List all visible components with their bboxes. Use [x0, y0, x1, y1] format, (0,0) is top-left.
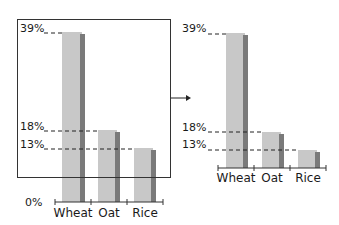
right-category-wheat: Wheat: [217, 171, 256, 185]
left-bar-oat: [98, 130, 120, 202]
left-label-39: 39%: [20, 22, 44, 35]
right-bar-rice: [298, 150, 320, 168]
right-category-rice: Rice: [295, 171, 321, 185]
left-category-oat: Oat: [98, 206, 120, 220]
right-bar-wheat: [226, 33, 248, 168]
left-label-0: 0%: [25, 196, 42, 209]
left-bar-wheat: [62, 32, 85, 202]
left-chart: 39% 18% 13% 0% Wheat Oat Rice: [18, 20, 171, 221]
right-label-13: 13%: [182, 138, 206, 151]
left-label-13: 13%: [20, 138, 44, 151]
left-category-rice: Rice: [132, 206, 158, 220]
right-category-oat: Oat: [261, 171, 283, 185]
right-label-39: 39%: [182, 22, 206, 35]
right-label-18: 18%: [182, 121, 206, 134]
right-chart: 39% 18% 13% Wheat Oat Rice: [182, 22, 326, 185]
left-category-wheat: Wheat: [54, 206, 93, 220]
left-bar-rice: [134, 148, 156, 202]
diagram-canvas: 39% 18% 13% 0% Wheat Oat Rice: [0, 0, 339, 225]
arrow-right-icon: [171, 95, 191, 101]
left-label-18: 18%: [20, 120, 44, 133]
